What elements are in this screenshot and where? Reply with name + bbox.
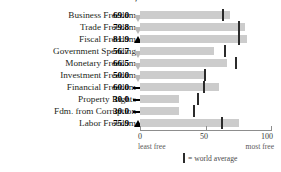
row-plot: [140, 57, 272, 69]
chart-row: Fdm. from Corruption30.0: [0, 105, 281, 117]
chart-rows: Business Freedom69.0Trade Freedom79.8Fis…: [0, 9, 281, 129]
world-average-tick: [204, 69, 206, 81]
row-value: 81.9: [105, 33, 129, 45]
world-average-tick: [235, 57, 237, 69]
chart-title: INDIVIDUAL FREEDOMS, PERCENT: [16, 0, 189, 2]
row-plot: [140, 21, 272, 33]
world-average-tick: [224, 45, 226, 57]
row-value: 50.0: [105, 69, 129, 81]
legend-label: = world average: [188, 154, 237, 163]
axis-tick-label-50: 50: [200, 132, 208, 141]
chart-row: Business Freedom69.0: [0, 9, 281, 21]
world-average-tick: [238, 21, 240, 33]
world-average-tick: [221, 117, 223, 129]
row-value: 75.9: [105, 117, 129, 129]
axis-tick-label-100: 100: [261, 132, 273, 141]
value-bar: [140, 59, 227, 67]
row-value: 66.5: [105, 57, 129, 69]
chart-row: Fiscal Freedom81.9: [0, 33, 281, 45]
row-plot: [140, 45, 272, 57]
world-average-tick: [222, 9, 224, 21]
chart-row: Monetary Freedom66.5: [0, 57, 281, 69]
row-plot: [140, 69, 272, 81]
row-value: 30.0: [105, 93, 129, 105]
row-plot: [140, 9, 272, 21]
row-value: 69.0: [105, 9, 129, 21]
row-plot: [140, 81, 272, 93]
world-average-marker-icon: [183, 153, 185, 163]
axis-tick: [140, 126, 141, 130]
row-value: 56.7: [105, 45, 129, 57]
value-bar: [140, 23, 245, 31]
row-plot: [140, 33, 272, 45]
world-average-tick: [203, 81, 205, 93]
world-average-tick: [238, 33, 240, 45]
chart-row: Financial Freedom60.0: [0, 81, 281, 93]
value-bar: [140, 11, 230, 19]
row-value: 79.8: [105, 21, 129, 33]
freedom-bar-chart: INDIVIDUAL FREEDOMS, PERCENT Business Fr…: [0, 0, 281, 172]
axis-tick-label-0: 0: [138, 132, 142, 141]
row-value: 60.0: [105, 81, 129, 93]
world-average-tick: [193, 105, 195, 117]
axis-label-least-free: least free: [138, 142, 166, 151]
value-bar: [140, 47, 214, 55]
world-average-tick: [197, 93, 199, 105]
chart-row: Trade Freedom79.8: [0, 21, 281, 33]
axis-line: [140, 130, 272, 131]
axis-tick: [206, 126, 207, 130]
row-plot: [140, 105, 272, 117]
value-bar: [140, 95, 179, 103]
legend: = world average: [183, 153, 237, 163]
axis-tick: [271, 126, 272, 130]
row-value: 30.0: [105, 105, 129, 117]
chart-row: Government Spending56.7: [0, 45, 281, 57]
value-bar: [140, 119, 239, 127]
value-bar: [140, 83, 219, 91]
value-bar: [140, 107, 179, 115]
value-bar: [140, 35, 247, 43]
axis-label-most-free: most free: [246, 142, 274, 151]
chart-row: Property Rights30.0: [0, 93, 281, 105]
row-plot: [140, 93, 272, 105]
chart-row: Investment Freedom50.0: [0, 69, 281, 81]
value-bar: [140, 71, 206, 79]
